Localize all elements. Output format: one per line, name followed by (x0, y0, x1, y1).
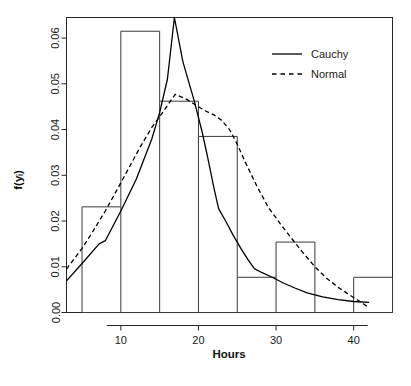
y-tick-label: 0.03 (50, 165, 62, 186)
figure-background (0, 0, 411, 386)
y-tick-label: 0.04 (50, 119, 62, 140)
plot-canvas: 0.000.010.020.030.040.050.06 10203040 f(… (0, 0, 411, 386)
legend-label-cauchy: Cauchy (311, 48, 349, 60)
x-tick-label: 40 (348, 334, 360, 346)
x-tick-label: 30 (270, 334, 282, 346)
y-tick-label: 0.01 (50, 256, 62, 277)
y-tick-label: 0.02 (50, 210, 62, 231)
x-tick-label: 20 (192, 334, 204, 346)
x-axis-title: Hours (212, 348, 245, 360)
legend-label-normal: Normal (311, 68, 346, 80)
y-tick-label: 0.00 (50, 302, 62, 323)
y-axis-title: f(yᵢ) (12, 170, 24, 190)
histogram-density-figure: 0.000.010.020.030.040.050.06 10203040 f(… (0, 0, 411, 386)
y-tick-label: 0.05 (50, 73, 62, 94)
x-tick-label: 10 (115, 334, 127, 346)
y-tick-label: 0.06 (50, 27, 62, 48)
